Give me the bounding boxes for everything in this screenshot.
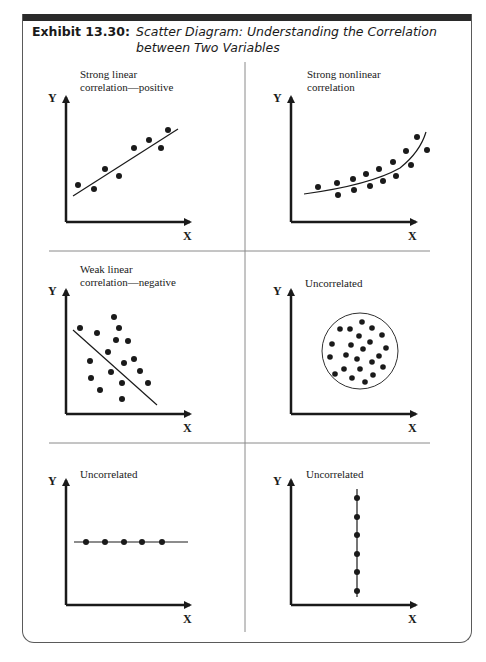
panel-label-line1: Strong linear xyxy=(80,68,137,80)
trend-curve xyxy=(304,132,426,194)
panel-uncorrelated-horizontal: Uncorrelated Y X xyxy=(48,468,192,626)
scatter-diagram-grid: Strong linear correlation—positive Y X S… xyxy=(0,0,486,662)
trend-line xyxy=(73,129,178,196)
x-axis-label: X xyxy=(408,612,417,626)
y-axis-label: Y xyxy=(273,91,282,105)
panel-strong-nonlinear: Strong nonlinear correlation Y X xyxy=(273,68,430,243)
panel-label-line2: correlation xyxy=(307,81,355,93)
data-points xyxy=(75,127,171,192)
y-axis-label: Y xyxy=(48,284,57,298)
y-axis-label: Y xyxy=(273,474,282,488)
data-points xyxy=(315,134,430,198)
panel-label-line1: Uncorrelated xyxy=(306,468,364,480)
cluster-circle xyxy=(322,313,398,389)
y-axis-label: Y xyxy=(48,474,57,488)
x-axis-label: X xyxy=(408,421,417,435)
panel-label-line1: Weak linear xyxy=(80,263,133,275)
panel-label-line2: correlation—negative xyxy=(80,276,176,288)
panel-label-line2: correlation—positive xyxy=(80,81,174,93)
panel-label-line1: Uncorrelated xyxy=(80,468,138,480)
data-points xyxy=(327,319,389,385)
y-axis-label: Y xyxy=(273,284,282,298)
panel-weak-linear-negative: Weak linear correlation—negative Y X xyxy=(48,263,192,435)
panel-uncorrelated-vertical: Uncorrelated Y X xyxy=(273,468,417,626)
data-points xyxy=(77,314,151,402)
panel-label-line1: Uncorrelated xyxy=(305,277,363,289)
x-axis-label: X xyxy=(183,229,192,243)
x-axis-label: X xyxy=(183,612,192,626)
panel-label-line1: Strong nonlinear xyxy=(307,68,381,80)
panel-uncorrelated-cloud: Uncorrelated Y X xyxy=(273,277,417,435)
panel-strong-linear-positive: Strong linear correlation—positive Y X xyxy=(48,68,192,243)
y-axis-label: Y xyxy=(48,91,57,105)
x-axis-label: X xyxy=(408,229,417,243)
x-axis-label: X xyxy=(183,421,192,435)
